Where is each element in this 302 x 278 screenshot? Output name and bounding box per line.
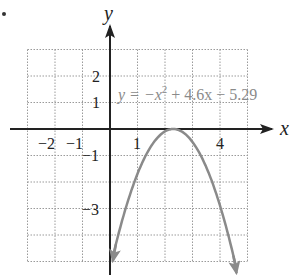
bullet-dot — [2, 12, 6, 16]
y-tick-label: 1 — [92, 94, 100, 111]
equation-rest: + 4.6x − 5.29 — [167, 86, 257, 103]
x-axis-label: x — [279, 117, 289, 139]
x-tick-label: 1 — [133, 135, 141, 152]
x-tick-label: 4 — [216, 135, 224, 152]
y-tick-label: −3 — [82, 201, 99, 218]
grid — [28, 50, 248, 262]
curve-arrow-right — [233, 256, 236, 273]
curve-arrow-left — [113, 244, 116, 261]
equation-main: y = −x — [116, 86, 162, 104]
x-tick-label: −2 — [38, 135, 55, 152]
y-tick-label: 2 — [92, 68, 100, 85]
x-tick-label: −1 — [66, 135, 83, 152]
y-axis-label: y — [102, 2, 113, 25]
equation-label: y = −x2 + 4.6x − 5.29 — [116, 83, 257, 104]
graph: x y −2 −1 1 4 2 1 −1 −3 y = −x2 + 4.6x −… — [0, 0, 302, 278]
y-tick-label: −1 — [82, 147, 99, 164]
